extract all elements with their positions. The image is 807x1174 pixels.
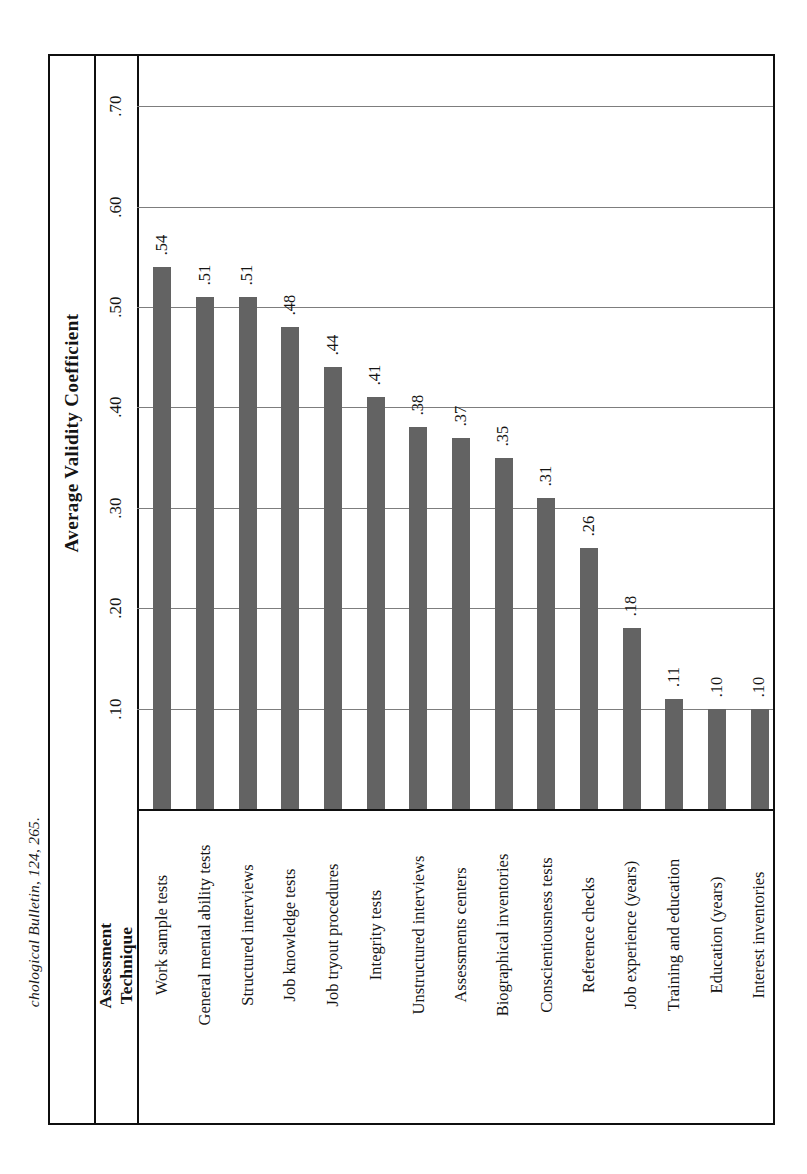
bar <box>153 267 171 809</box>
y-axis-tick-label: .50 <box>94 296 137 318</box>
figure-caption: chological Bulletin, 124, 265. <box>25 712 43 1112</box>
chart-frame: Average Validity Coefficient .10.20.30.4… <box>48 54 775 1125</box>
bar-value-label: .18 <box>619 582 645 628</box>
category-label: Reference checks <box>574 815 604 1065</box>
plot-area: .54.51.51.48.44.41.38.37.35.31.26.18.11.… <box>137 56 773 809</box>
bar-value-label: .51 <box>235 251 261 297</box>
gridline <box>137 106 773 107</box>
category-label: Training and education <box>659 815 689 1065</box>
category-label: Conscientiousness tests <box>531 815 561 1065</box>
category-label: Structured interviews <box>233 815 263 1065</box>
bar <box>409 427 427 809</box>
bar-value-label: .35 <box>491 412 517 458</box>
bar-value-label: .37 <box>448 392 474 438</box>
bar <box>239 297 257 809</box>
bar-value-label: .51 <box>192 251 218 297</box>
category-label: Unstructured interviews <box>403 815 433 1065</box>
y-axis-tick-label: .10 <box>94 698 137 720</box>
category-label: Job knowledge tests <box>275 815 305 1065</box>
category-label: Education (years) <box>702 815 732 1065</box>
category-label: Work sample tests <box>147 815 177 1065</box>
bar <box>580 548 598 809</box>
category-header-line2: Technique <box>116 927 136 1004</box>
category-label: Interest inventories <box>745 815 775 1065</box>
bar <box>751 709 769 809</box>
bar <box>196 297 214 809</box>
y-axis-title: Average Validity Coefficient <box>61 313 83 552</box>
bar <box>367 397 385 809</box>
bar-value-label: .44 <box>320 321 346 367</box>
category-label: Job experience (years) <box>617 815 647 1065</box>
gridline <box>137 207 773 208</box>
y-axis-tick-label: .20 <box>94 597 137 619</box>
category-label: Assessments centers <box>446 815 476 1065</box>
y-axis-tick-label: .40 <box>94 396 137 418</box>
bar-value-label: .38 <box>405 381 431 427</box>
bar-value-label: .48 <box>277 281 303 327</box>
category-band: Assessment Technique Work sample testsGe… <box>137 809 773 1123</box>
bar <box>281 327 299 809</box>
bar <box>623 628 641 809</box>
bar-value-label: .10 <box>704 663 730 709</box>
category-label: Job tryout procedures <box>318 815 348 1065</box>
tick-label-band: .10.20.30.40.50.60.70 <box>94 56 137 809</box>
bar <box>324 367 342 809</box>
bar-value-label: .10 <box>747 663 773 709</box>
bar <box>495 458 513 809</box>
axis-title-band: Average Validity Coefficient <box>50 56 94 809</box>
bar-value-label: .26 <box>576 502 602 548</box>
category-header-line1: Assessment <box>95 923 115 1009</box>
y-axis-tick-label: .60 <box>94 196 137 218</box>
bar-value-label: .11 <box>661 653 687 699</box>
category-label: Integrity tests <box>361 815 391 1065</box>
bar-value-label: .41 <box>363 351 389 397</box>
bar <box>708 709 726 809</box>
bar <box>665 699 683 809</box>
category-label: General mental ability tests <box>190 815 220 1065</box>
bar <box>452 438 470 809</box>
bar-value-label: .54 <box>149 221 175 267</box>
y-axis-tick-label: .30 <box>94 497 137 519</box>
bar <box>537 498 555 809</box>
category-label: Biographical inventories <box>489 815 519 1065</box>
bar-value-label: .31 <box>533 452 559 498</box>
gridline <box>137 307 773 308</box>
y-axis-tick-label: .70 <box>94 95 137 117</box>
